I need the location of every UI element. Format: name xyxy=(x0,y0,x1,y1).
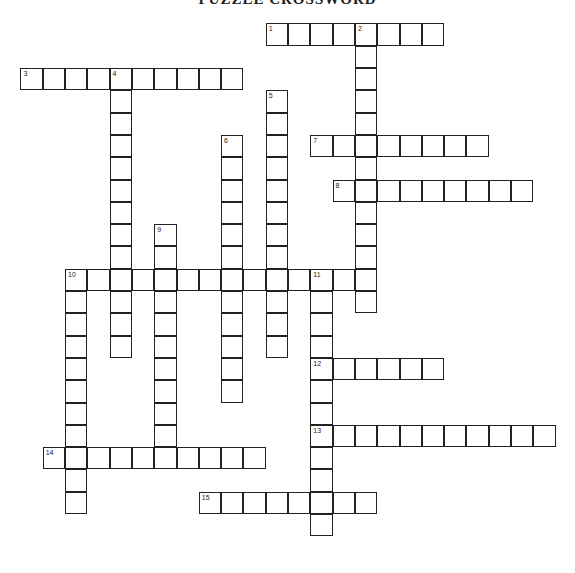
crossword-cell[interactable] xyxy=(266,291,288,313)
crossword-cell[interactable] xyxy=(221,224,243,246)
crossword-cell[interactable]: 11 xyxy=(310,269,332,291)
crossword-cell[interactable] xyxy=(266,135,288,157)
crossword-cell[interactable] xyxy=(65,403,87,425)
crossword-cell[interactable] xyxy=(266,224,288,246)
crossword-cell[interactable] xyxy=(355,358,377,380)
crossword-cell[interactable] xyxy=(154,380,176,402)
crossword-cell[interactable] xyxy=(333,358,355,380)
crossword-cell[interactable] xyxy=(65,313,87,335)
crossword-cell[interactable] xyxy=(511,425,533,447)
crossword-cell[interactable] xyxy=(65,291,87,313)
crossword-cell[interactable] xyxy=(377,23,399,45)
crossword-cell[interactable] xyxy=(266,157,288,179)
crossword-cell[interactable] xyxy=(65,447,87,469)
crossword-cell[interactable] xyxy=(266,246,288,268)
crossword-cell[interactable] xyxy=(87,68,109,90)
crossword-cell[interactable] xyxy=(333,492,355,514)
crossword-cell[interactable] xyxy=(533,425,555,447)
crossword-cell[interactable]: 1 xyxy=(266,23,288,45)
crossword-cell[interactable] xyxy=(110,224,132,246)
crossword-cell[interactable] xyxy=(199,68,221,90)
crossword-cell[interactable] xyxy=(154,403,176,425)
crossword-cell[interactable] xyxy=(266,336,288,358)
crossword-cell[interactable] xyxy=(243,492,265,514)
crossword-cell[interactable] xyxy=(154,336,176,358)
crossword-cell[interactable] xyxy=(110,113,132,135)
crossword-cell[interactable] xyxy=(110,135,132,157)
crossword-cell[interactable] xyxy=(221,291,243,313)
crossword-cell[interactable] xyxy=(310,514,332,536)
crossword-cell[interactable] xyxy=(310,403,332,425)
crossword-cell[interactable] xyxy=(422,180,444,202)
crossword-cell[interactable] xyxy=(132,447,154,469)
crossword-cell[interactable] xyxy=(400,425,422,447)
crossword-cell[interactable]: 2 xyxy=(355,23,377,45)
crossword-cell[interactable] xyxy=(221,202,243,224)
crossword-cell[interactable] xyxy=(65,380,87,402)
crossword-cell[interactable]: 4 xyxy=(110,68,132,90)
crossword-cell[interactable] xyxy=(221,358,243,380)
crossword-cell[interactable] xyxy=(355,90,377,112)
crossword-cell[interactable] xyxy=(310,313,332,335)
crossword-cell[interactable] xyxy=(65,492,87,514)
crossword-cell[interactable] xyxy=(110,269,132,291)
crossword-cell[interactable]: 3 xyxy=(20,68,42,90)
crossword-cell[interactable] xyxy=(422,358,444,380)
crossword-cell[interactable]: 13 xyxy=(310,425,332,447)
crossword-cell[interactable] xyxy=(466,180,488,202)
crossword-cell[interactable] xyxy=(110,202,132,224)
crossword-cell[interactable] xyxy=(288,23,310,45)
crossword-cell[interactable] xyxy=(355,291,377,313)
crossword-cell[interactable]: 7 xyxy=(310,135,332,157)
crossword-cell[interactable] xyxy=(221,447,243,469)
crossword-cell[interactable] xyxy=(177,269,199,291)
crossword-cell[interactable] xyxy=(310,23,332,45)
crossword-cell[interactable] xyxy=(65,68,87,90)
crossword-cell[interactable] xyxy=(65,336,87,358)
crossword-cell[interactable] xyxy=(400,180,422,202)
crossword-cell[interactable] xyxy=(489,425,511,447)
crossword-cell[interactable] xyxy=(154,425,176,447)
crossword-cell[interactable] xyxy=(221,336,243,358)
crossword-cell[interactable] xyxy=(154,246,176,268)
crossword-cell[interactable] xyxy=(154,447,176,469)
crossword-cell[interactable] xyxy=(65,358,87,380)
crossword-cell[interactable] xyxy=(221,313,243,335)
crossword-cell[interactable] xyxy=(110,90,132,112)
crossword-cell[interactable] xyxy=(110,246,132,268)
crossword-cell[interactable] xyxy=(154,68,176,90)
crossword-cell[interactable] xyxy=(177,447,199,469)
crossword-cell[interactable] xyxy=(132,269,154,291)
crossword-cell[interactable] xyxy=(355,269,377,291)
crossword-cell[interactable] xyxy=(221,269,243,291)
crossword-cell[interactable] xyxy=(221,492,243,514)
crossword-cell[interactable]: 6 xyxy=(221,135,243,157)
crossword-cell[interactable] xyxy=(355,113,377,135)
crossword-cell[interactable] xyxy=(154,269,176,291)
crossword-cell[interactable] xyxy=(377,425,399,447)
crossword-cell[interactable] xyxy=(266,269,288,291)
crossword-cell[interactable] xyxy=(400,23,422,45)
crossword-cell[interactable] xyxy=(221,157,243,179)
crossword-cell[interactable] xyxy=(400,135,422,157)
crossword-cell[interactable]: 15 xyxy=(199,492,221,514)
crossword-cell[interactable] xyxy=(466,135,488,157)
crossword-cell[interactable] xyxy=(65,469,87,491)
crossword-cell[interactable]: 9 xyxy=(154,224,176,246)
crossword-cell[interactable] xyxy=(355,224,377,246)
crossword-cell[interactable] xyxy=(221,180,243,202)
crossword-cell[interactable] xyxy=(333,269,355,291)
crossword-cell[interactable] xyxy=(400,358,422,380)
crossword-cell[interactable] xyxy=(355,246,377,268)
crossword-cell[interactable]: 12 xyxy=(310,358,332,380)
crossword-cell[interactable] xyxy=(199,269,221,291)
crossword-cell[interactable] xyxy=(221,246,243,268)
crossword-cell[interactable] xyxy=(110,157,132,179)
crossword-cell[interactable] xyxy=(110,291,132,313)
crossword-cell[interactable] xyxy=(355,202,377,224)
crossword-cell[interactable] xyxy=(177,68,199,90)
crossword-cell[interactable] xyxy=(310,380,332,402)
crossword-cell[interactable] xyxy=(422,135,444,157)
crossword-cell[interactable] xyxy=(310,469,332,491)
crossword-cell[interactable] xyxy=(377,135,399,157)
